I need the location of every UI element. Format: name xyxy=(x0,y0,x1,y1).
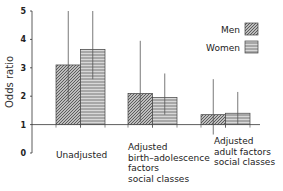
legend-swatch-women xyxy=(245,41,258,53)
y-tick-label: 0 xyxy=(20,149,26,158)
legend: MenWomen xyxy=(206,23,258,53)
legend-swatch-men xyxy=(245,23,258,35)
category-label: social classes xyxy=(128,174,189,184)
category-label: social classes xyxy=(214,157,275,167)
category-label: Adjusted xyxy=(214,136,253,146)
category-label: adult factors xyxy=(214,147,271,157)
y-tick-label: 3 xyxy=(20,64,26,73)
legend-label-men: Men xyxy=(221,25,240,35)
legend-label-women: Women xyxy=(206,43,240,53)
y-tick-label: 4 xyxy=(20,35,26,44)
category-label: Adjusted xyxy=(128,142,167,152)
odds-ratio-chart: 012345Odds ratio UnadjustedAdjustedbirth… xyxy=(0,0,283,191)
category-labels: UnadjustedAdjustedbirth–adolescencefacto… xyxy=(56,136,275,184)
y-tick-label: 2 xyxy=(20,92,26,101)
y-axis-title: Odds ratio xyxy=(4,56,15,108)
category-label: Unadjusted xyxy=(56,150,107,160)
y-tick-label: 1 xyxy=(20,121,26,130)
y-tick-label: 5 xyxy=(20,7,26,16)
category-label: factors xyxy=(128,163,159,173)
category-label: birth–adolescence xyxy=(128,153,210,163)
